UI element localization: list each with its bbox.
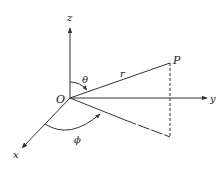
z-axis-label: z <box>66 12 73 23</box>
radius-label: r <box>120 68 126 79</box>
phi-arc <box>45 114 100 130</box>
x-axis-label: x <box>13 149 19 160</box>
theta-label: θ <box>82 74 88 85</box>
projection-line-dashed <box>125 120 170 137</box>
phi-label: ϕ <box>74 134 81 145</box>
y-axis-label: y <box>209 93 216 104</box>
origin-label: O <box>56 93 65 106</box>
point-label: P <box>172 54 181 67</box>
spherical-coordinates-diagram: z y x O P r θ ϕ <box>0 0 224 175</box>
